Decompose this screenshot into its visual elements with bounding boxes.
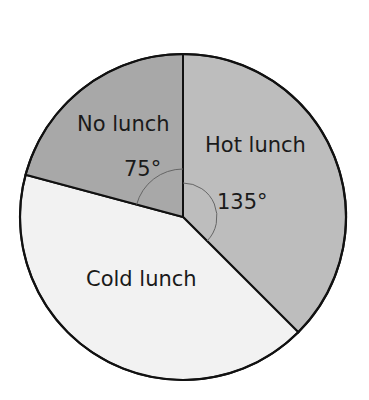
angle-label-hot-lunch: 135° <box>217 190 268 214</box>
label-cold-lunch: Cold lunch <box>86 267 197 291</box>
label-no-lunch: No lunch <box>77 112 170 136</box>
label-hot-lunch: Hot lunch <box>205 133 306 157</box>
pie-chart: No lunch Hot lunch Cold lunch 75° 135° <box>0 0 369 400</box>
angle-label-no-lunch: 75° <box>124 157 161 181</box>
